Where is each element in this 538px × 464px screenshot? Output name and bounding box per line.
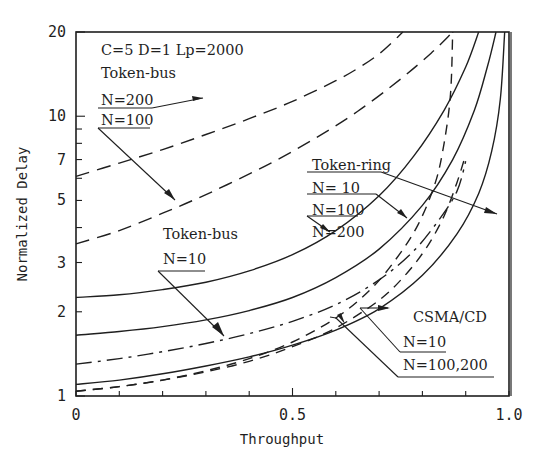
x-tick-label: 1.0 [495, 406, 522, 424]
y-tick-label: 10 [48, 107, 66, 125]
tokenring-n200-label: N=200 [312, 224, 365, 240]
tokenbus-n10-label: N=10 [163, 251, 206, 267]
curve-csma-cd-n-100-200 [76, 32, 453, 391]
curve-csma-cd-n-10 [76, 155, 466, 392]
tokenbus-n100-label: N=100 [101, 112, 154, 128]
csmacd-label: CSMA/CD [413, 309, 487, 325]
csmacd-n10-label: N=10 [403, 334, 446, 350]
y-tick-label: 5 [57, 191, 66, 209]
tokenring-label: Token-ring [312, 157, 391, 173]
y-tick-label: 1 [57, 387, 66, 405]
y-axis-title: Normalized Delay [14, 147, 30, 282]
tokenbus-n200-label: N=200 [101, 92, 154, 108]
tokenbus-top-label: Token-bus [101, 65, 176, 81]
x-axis-title: Throughput [240, 431, 324, 447]
parameters-label: C=5 D=1 Lp=2000 [101, 42, 244, 58]
y-tick-label: 2 [57, 303, 66, 321]
curve-token-ring-n-10 [76, 32, 505, 384]
csmacd-n100-200-label: N=100,200 [403, 357, 488, 373]
delay-throughput-chart: 00.51.0123571020 Throughput Normalized D… [0, 0, 538, 464]
x-tick-label: 0.5 [279, 406, 306, 424]
x-tick-label: 0 [71, 406, 80, 424]
y-tick-label: 20 [48, 23, 66, 41]
tokenbus-mid-label: Token-bus [163, 226, 238, 242]
y-tick-label: 7 [57, 151, 66, 169]
y-tick-label: 3 [57, 254, 66, 272]
curve-token-bus-n-100 [76, 32, 453, 244]
